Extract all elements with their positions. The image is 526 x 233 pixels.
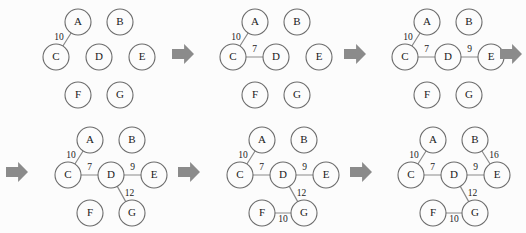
edge-weight-f-g: 10 (449, 214, 459, 224)
node-label-d: D (279, 168, 287, 180)
edge-weight-a-c: 10 (231, 32, 241, 42)
arrow-step2-to-step3 (344, 44, 366, 64)
node-label-g: G (293, 88, 301, 100)
node-label-f: F (430, 206, 436, 218)
node-label-b: B (128, 133, 135, 145)
node-label-a: A (74, 15, 82, 27)
edge-weight-b-e: 16 (489, 150, 499, 160)
edge-weight-c-d: 7 (259, 162, 264, 172)
node-label-f: F (75, 88, 81, 100)
node-group: ABCDEFG (392, 9, 504, 108)
node-label-b: B (465, 15, 472, 27)
panel-step-2: 107ABCDEFG (220, 9, 332, 108)
panel-step-5: 10791210ABCDEFG (227, 127, 339, 226)
edge-weight-a-c: 10 (238, 150, 248, 160)
node-label-d: D (95, 50, 103, 62)
node-label-a: A (423, 15, 431, 27)
edge-weight-c-d: 7 (424, 44, 429, 54)
node-label-e: E (139, 50, 146, 62)
node-label-g: G (300, 206, 308, 218)
node-label-d: D (444, 50, 452, 62)
node-label-f: F (259, 206, 265, 218)
edge-weight-d-g: 12 (468, 188, 478, 198)
arrow-step3-to-step4-continue (6, 162, 28, 182)
edge-weight-d-e: 9 (467, 44, 472, 54)
node-label-f: F (87, 206, 93, 218)
node-label-a: A (429, 133, 437, 145)
edge-a-c (75, 151, 83, 164)
edge-weight-c-d: 7 (252, 44, 257, 54)
panel-step-6: 1079121016ABCDEFG (398, 127, 510, 226)
edge-weight-a-c: 10 (54, 32, 64, 42)
node-label-g: G (128, 206, 136, 218)
edge-a-c (247, 151, 255, 164)
node-label-b: B (293, 15, 300, 27)
node-label-e: E (323, 168, 330, 180)
node-label-d: D (272, 50, 280, 62)
edge-weight-a-c: 10 (403, 32, 413, 42)
node-label-c: C (401, 50, 408, 62)
node-group: ABCDEFG (220, 9, 332, 108)
node-label-d: D (450, 168, 458, 180)
edge-weight-d-e: 9 (130, 162, 135, 172)
node-label-g: G (116, 88, 124, 100)
edge-weight-d-e: 9 (473, 162, 478, 172)
node-label-c: C (64, 168, 71, 180)
edge-weight-d-g: 12 (125, 188, 135, 198)
edge-weight-d-e: 9 (302, 162, 307, 172)
arrow-step1-to-step2 (172, 44, 194, 64)
node-label-b: B (471, 133, 478, 145)
node-group: ABCDEFG (398, 127, 510, 226)
node-label-e: E (151, 168, 158, 180)
node-label-a: A (258, 133, 266, 145)
node-label-c: C (229, 50, 236, 62)
node-label-a: A (251, 15, 259, 27)
node-label-e: E (316, 50, 323, 62)
edge-weight-c-d: 7 (430, 162, 435, 172)
edge-weight-a-c: 10 (409, 150, 419, 160)
edge-a-c (240, 33, 248, 46)
edge-a-c (63, 33, 71, 46)
node-label-c: C (407, 168, 414, 180)
arrow-step5-to-step6 (350, 162, 372, 182)
edge-weight-f-g: 10 (278, 214, 288, 224)
node-group: ABCDEFG (55, 127, 167, 226)
edge-weight-c-d: 7 (87, 162, 92, 172)
node-label-e: E (488, 50, 495, 62)
node-label-g: G (471, 206, 479, 218)
panel-step-4: 107912ABCDEFG (55, 127, 167, 226)
node-label-f: F (252, 88, 258, 100)
edge-weight-a-c: 10 (66, 150, 76, 160)
node-label-f: F (424, 88, 430, 100)
node-label-d: D (107, 168, 115, 180)
node-label-g: G (465, 88, 473, 100)
edge-a-c (412, 33, 420, 46)
node-group: ABCDEFG (43, 9, 155, 108)
node-label-b: B (300, 133, 307, 145)
node-label-c: C (52, 50, 59, 62)
mst-steps-figure: 10ABCDEFG107ABCDEFG1079ABCDEFG107912ABCD… (0, 0, 526, 233)
node-label-e: E (494, 168, 501, 180)
node-label-c: C (236, 168, 243, 180)
diagram-canvas: 10ABCDEFG107ABCDEFG1079ABCDEFG107912ABCD… (0, 0, 526, 233)
edge-weight-d-g: 12 (297, 188, 307, 198)
panel-step-3: 1079ABCDEFG (392, 9, 504, 108)
arrow-step4-to-step5 (178, 162, 200, 182)
node-label-a: A (86, 133, 94, 145)
node-group: ABCDEFG (227, 127, 339, 226)
edge-a-c (418, 151, 426, 164)
panel-step-1: 10ABCDEFG (43, 9, 155, 108)
node-label-b: B (116, 15, 123, 27)
